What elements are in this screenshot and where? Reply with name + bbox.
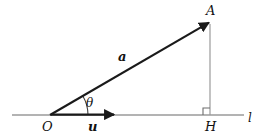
vector-geometry-figure: A O H l a u θ <box>0 0 266 138</box>
label-vector-a: a <box>118 50 126 63</box>
label-angle-theta: θ <box>86 97 93 109</box>
label-point-h: H <box>205 120 216 133</box>
label-line-l: l <box>248 112 252 124</box>
label-point-a: A <box>206 4 215 17</box>
label-vector-u: u <box>88 120 97 133</box>
figure-canvas <box>0 0 266 138</box>
label-point-o: O <box>42 120 53 133</box>
vector-a-arrow <box>50 23 209 115</box>
right-angle-marker-icon <box>203 108 210 115</box>
